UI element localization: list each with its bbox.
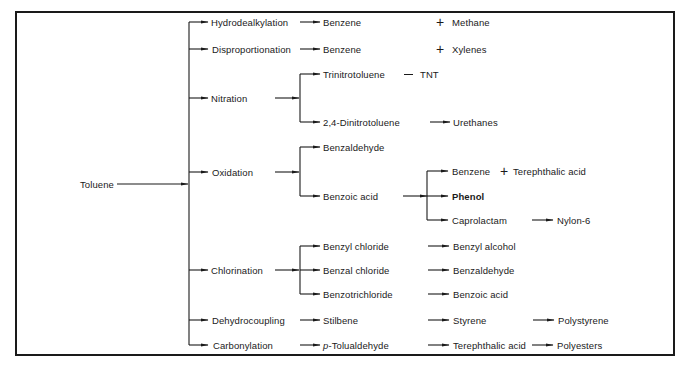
node-tnt: TNT: [420, 69, 439, 80]
node-xylenes: Xylenes: [452, 44, 487, 55]
plus-symbol: +: [436, 42, 444, 56]
node-phenol: Phenol: [452, 191, 484, 202]
process-oxidation: Oxidation: [212, 167, 253, 178]
tolualdehyde-text: -Tolualdehyde: [328, 340, 388, 351]
node-benzoic-acid: Benzoic acid: [323, 191, 378, 202]
process-dehydrocoupling: Dehydrocoupling: [212, 315, 285, 326]
process-carbonylation: Carbonylation: [213, 340, 273, 351]
node-p-tolualdehyde: p-Tolualdehyde: [323, 340, 389, 351]
plus-symbol: +: [436, 15, 444, 29]
node-benzotrichloride: Benzotrichloride: [323, 289, 393, 300]
node-benzal-chloride: Benzal chloride: [323, 265, 389, 276]
node-stilbene: Stilbene: [323, 315, 358, 326]
node-terephthalic-acid: Terephthalic acid: [513, 166, 586, 177]
node-toluene: Toluene: [80, 179, 114, 190]
process-chlorination: Chlorination: [211, 265, 263, 276]
node-terephthalic-acid: Terephthalic acid: [453, 340, 526, 351]
node-polyesters: Polyesters: [557, 340, 602, 351]
node-benzoic-acid: Benzoic acid: [453, 289, 508, 300]
node-urethanes: Urethanes: [453, 117, 498, 128]
node-methane: Methane: [452, 17, 490, 28]
node-caprolactam: Caprolactam: [452, 215, 507, 226]
node-styrene: Styrene: [453, 315, 486, 326]
node-benzene: Benzene: [323, 44, 361, 55]
node-benzaldehyde: Benzaldehyde: [323, 142, 384, 153]
equivalence-dash: [404, 74, 413, 75]
process-disproportionation: Disproportionation: [212, 44, 291, 55]
node-benzene: Benzene: [323, 17, 361, 28]
node-trinitrotoluene: Trinitrotoluene: [323, 69, 385, 80]
node-polystyrene: Polystyrene: [558, 315, 609, 326]
process-hydrodealkylation: Hydrodealkylation: [211, 17, 288, 28]
process-nitration: Nitration: [211, 93, 247, 104]
node-benzene: Benzene: [452, 166, 490, 177]
node-benzyl-chloride: Benzyl chloride: [323, 241, 389, 252]
node-benzyl-alcohol: Benzyl alcohol: [453, 241, 516, 252]
node-benzaldehyde: Benzaldehyde: [453, 265, 514, 276]
node-dinitrotoluene: 2,4-Dinitrotoluene: [323, 117, 400, 128]
node-nylon-6: Nylon-6: [557, 215, 590, 226]
plus-symbol: +: [500, 164, 508, 178]
